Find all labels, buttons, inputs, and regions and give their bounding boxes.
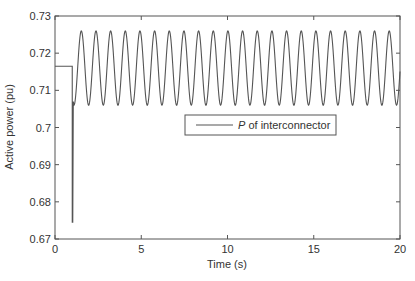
x-axis-label: Time (s): [207, 258, 247, 270]
y-tick-label: 0.69: [30, 159, 51, 171]
y-tick-label: 0.7: [36, 122, 51, 134]
legend: P of interconnector: [185, 115, 336, 135]
x-tick-label: 15: [308, 243, 320, 255]
y-tick-label: 0.67: [30, 233, 51, 245]
y-axis-label: Active power (pu): [3, 84, 15, 170]
legend-entry: P of interconnector: [238, 119, 331, 131]
line-chart: 0.670.680.690.70.710.720.73 05101520 Tim…: [0, 0, 415, 281]
x-tick-label: 5: [138, 243, 144, 255]
y-tick-label: 0.72: [30, 47, 51, 59]
y-tick-label: 0.73: [30, 10, 51, 22]
x-tick-label: 10: [221, 243, 233, 255]
x-tick-label: 20: [394, 243, 406, 255]
x-tick-label: 0: [52, 243, 58, 255]
y-tick-label: 0.68: [30, 196, 51, 208]
y-tick-label: 0.71: [30, 84, 51, 96]
